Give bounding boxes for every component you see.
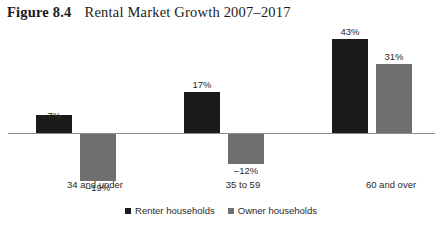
bar-value-label-renter-2: 43% <box>321 26 379 37</box>
bar-value-label-owner-1: –12% <box>217 165 275 176</box>
bar-owner-1[interactable] <box>228 134 264 164</box>
figure-number: Figure 8.4 <box>7 4 72 20</box>
bar-group-0: 7% –19% 34 and under <box>36 24 152 200</box>
legend-item-renter[interactable]: Renter households <box>125 205 215 216</box>
legend-label-renter: Renter households <box>135 205 215 216</box>
category-label-0: 34 and under <box>25 179 165 190</box>
legend-label-owner: Owner households <box>238 205 317 216</box>
chart-legend: Renter households Owner households <box>0 205 442 216</box>
bar-renter-2[interactable] <box>332 39 368 133</box>
bar-owner-2[interactable] <box>376 64 412 133</box>
bar-value-label-renter-0: 7% <box>25 110 83 121</box>
chart-plot-area: 7% –19% 34 and under 17% –12% 35 to 59 4… <box>0 24 442 200</box>
figure-title-text: Rental Market Growth 2007–2017 <box>85 4 291 20</box>
legend-swatch-icon-renter <box>125 208 131 214</box>
bar-owner-0[interactable] <box>80 134 116 181</box>
category-label-2: 60 and over <box>321 179 442 190</box>
bar-value-label-owner-2: 31% <box>365 51 423 62</box>
bar-value-label-renter-1: 17% <box>173 79 231 90</box>
category-label-1: 35 to 59 <box>173 179 313 190</box>
bar-renter-1[interactable] <box>184 92 220 133</box>
legend-item-owner[interactable]: Owner households <box>228 205 317 216</box>
legend-swatch-icon-owner <box>228 208 234 214</box>
bar-group-2: 43% 31% 60 and over <box>332 24 442 200</box>
page-title: Figure 8.4Rental Market Growth 2007–2017 <box>7 4 291 21</box>
bar-group-1: 17% –12% 35 to 59 <box>184 24 300 200</box>
